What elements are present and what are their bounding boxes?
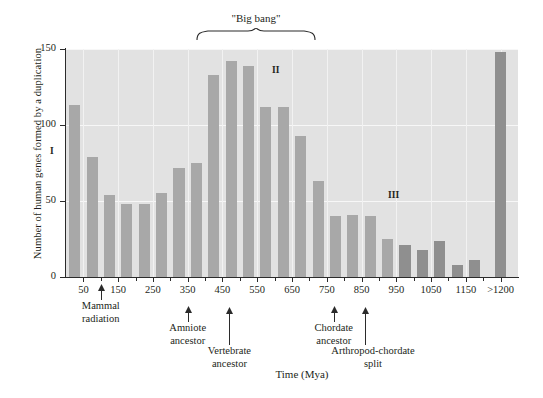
region-label-iii: III [388,190,399,200]
bar [260,107,271,277]
event-annotation-line1: Arthropod-chordate [309,345,437,358]
y-axis-tick [60,125,65,126]
x-axis-tick [448,278,449,281]
bar [382,239,393,277]
y-axis-line [65,48,66,278]
bar [156,193,167,277]
region-label-i: I [50,146,54,156]
x-axis-tick [501,278,502,282]
event-annotation: Amnioteancestor [146,322,230,347]
x-axis-tick [414,278,415,281]
x-axis-tick [153,278,154,282]
y-axis-tick-label: 50 [22,194,56,205]
bar [104,195,115,277]
bar [173,168,184,277]
x-axis-tick [466,278,467,282]
bar [330,216,341,277]
event-annotation-line1: Vertebrate [183,345,275,358]
bar [278,107,289,277]
bar [399,245,410,277]
event-arrow-icon [183,306,194,322]
bar [191,163,202,277]
x-axis-tick [344,278,345,281]
x-axis-tick [327,278,328,282]
bar [417,250,428,277]
y-axis-tick-label: 100 [22,118,56,129]
y-axis-tick-label: 150 [22,42,56,53]
bar [243,66,254,277]
y-axis-tick [60,277,65,278]
y-axis-tick-label: 0 [22,270,56,281]
bar [347,215,358,277]
gridline-vertical [188,49,189,277]
y-axis-tick [60,201,65,202]
x-axis-tick [240,278,241,281]
x-axis-tick [101,278,102,281]
x-axis-tick [292,278,293,282]
x-axis-tick [431,278,432,282]
region-label-ii: II [272,65,279,75]
event-annotation: Vertebrateancestor [183,345,275,370]
y-axis-tick [60,49,65,50]
event-annotation-line2: radiation [59,313,143,326]
event-annotation: Arthropod-chordatesplit [309,345,437,370]
gridline-vertical [257,49,258,277]
x-axis-tick [136,278,137,281]
x-axis-tick [222,278,223,282]
gridline-vertical [431,49,432,277]
event-arrow-icon [360,307,371,345]
bar [139,204,150,277]
plot-area [66,49,518,277]
bar [121,204,132,277]
bar [87,157,98,277]
gridline-vertical [222,49,223,277]
event-annotation-line1: Amniote [146,322,230,335]
bar [452,265,463,277]
x-axis-tick [483,278,484,281]
bigbang-brace-icon [196,28,316,41]
x-axis-tick [83,278,84,282]
y-axis-title: Number of human genes formed by a duplic… [32,39,43,269]
gridline-vertical [327,49,328,277]
gridline-vertical [362,49,363,277]
x-axis-tick [257,278,258,282]
x-axis-tick [118,278,119,282]
bigbang-annotation-label: "Big bang" [196,12,316,24]
x-axis-tick [205,278,206,281]
event-annotation-line2: split [309,358,437,371]
event-arrow-icon [329,306,340,322]
bar [469,260,480,277]
x-axis-tick [396,278,397,282]
bar [365,216,376,277]
x-axis-tick [362,278,363,282]
gridline-vertical [153,49,154,277]
bar [208,75,219,277]
gridline-vertical [466,49,467,277]
bar [69,105,80,277]
x-axis-tick-label: >1200 [478,284,524,295]
x-axis-tick [188,278,189,282]
event-annotation-line1: Mammal [59,300,143,313]
bar [495,52,506,277]
gridline-vertical [83,49,84,277]
event-annotation: Mammalradiation [59,300,143,325]
gridline-vertical [292,49,293,277]
event-arrow-icon [224,307,235,345]
gridline-vertical [396,49,397,277]
bar [434,241,445,277]
event-arrow-icon [96,284,107,300]
event-annotation-line2: ancestor [183,358,275,371]
bar [226,61,237,277]
x-axis-tick [170,278,171,281]
figure-container: Number of human genes formed by a duplic… [0,0,543,398]
x-axis-tick [275,278,276,281]
x-axis-tick [379,278,380,281]
bar [313,181,324,277]
bar [295,136,306,277]
gridline-vertical [118,49,119,277]
x-axis-tick [309,278,310,281]
